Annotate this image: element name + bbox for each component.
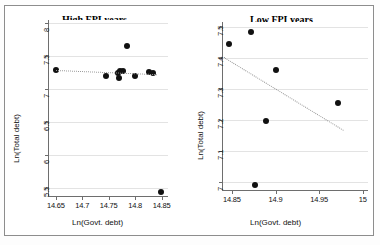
y-tick-label: 7.3	[216, 88, 225, 98]
plot-area-high-fpi	[48, 20, 168, 196]
data-point	[226, 41, 232, 47]
y-axis-spine	[48, 20, 49, 196]
x-tick	[109, 197, 110, 200]
y-tick-label: 6.5	[42, 121, 51, 131]
x-tick-label: 14.95	[310, 195, 328, 204]
x-axis-title-low-fpi: Ln(Govt. debt)	[250, 218, 301, 227]
plot-area-low-fpi	[222, 22, 368, 190]
data-point	[116, 75, 122, 81]
x-tick-label: 14.9	[269, 195, 283, 204]
gridline	[222, 58, 368, 59]
y-tick-label: 7.2	[216, 119, 225, 129]
gridline	[48, 23, 168, 24]
x-tick	[363, 191, 364, 194]
x-tick	[232, 191, 233, 194]
panel-high-fpi: High FPI years 5.566.577.58 14.6514.714.…	[0, 0, 190, 245]
y-tick	[219, 182, 222, 183]
gridline	[48, 89, 168, 90]
data-point	[248, 29, 254, 35]
figure-root: High FPI years 5.566.577.58 14.6514.714.…	[0, 0, 380, 245]
data-point	[124, 43, 130, 49]
y-tick-label: 8	[42, 28, 51, 32]
y-axis-spine	[222, 22, 223, 190]
x-axis-spine	[48, 196, 168, 197]
x-tick	[135, 197, 136, 200]
y-tick	[45, 155, 48, 156]
gridline	[222, 89, 368, 90]
x-tick-label: 14.85	[153, 201, 171, 210]
y-tick	[45, 89, 48, 90]
y-tick-label: 7.5	[216, 26, 225, 36]
data-point	[263, 118, 269, 124]
panel-low-fpi: Low FPI years 77.17.27.37.47.5 14.8514.9…	[190, 0, 380, 245]
gridline	[48, 188, 168, 189]
x-tick-label: 14.85	[223, 195, 241, 204]
x-tick-label: 14.8	[128, 201, 142, 210]
y-tick	[45, 23, 48, 24]
gridline	[222, 27, 368, 28]
y-tick-label: 7.1	[216, 150, 225, 160]
gridline	[222, 120, 368, 121]
y-tick-label: 7	[216, 187, 225, 191]
x-tick-label: 15	[359, 195, 367, 204]
data-point	[335, 100, 341, 106]
x-tick	[82, 197, 83, 200]
x-axis-spine	[222, 190, 368, 191]
y-axis-title-high-fpi: Ln(Total debt)	[12, 114, 21, 163]
gridline	[48, 122, 168, 123]
gridline	[48, 56, 168, 57]
gridline	[48, 155, 168, 156]
x-tick	[319, 191, 320, 194]
x-tick	[162, 197, 163, 200]
x-tick-label: 14.7	[75, 201, 89, 210]
y-axis-title-low-fpi: Ln(Total debt)	[196, 111, 205, 160]
y-tick-label: 6	[42, 160, 51, 164]
y-tick-label: 7	[42, 94, 51, 98]
x-tick	[56, 197, 57, 200]
y-tick-label: 5.5	[42, 187, 51, 197]
x-tick-label: 14.65	[47, 201, 65, 210]
gridline	[222, 151, 368, 152]
x-axis-title-high-fpi: Ln(Govt. debt)	[72, 218, 123, 227]
x-tick-label: 14.75	[100, 201, 118, 210]
gridline	[222, 182, 368, 183]
x-tick	[276, 191, 277, 194]
y-tick-label: 7.5	[42, 55, 51, 65]
